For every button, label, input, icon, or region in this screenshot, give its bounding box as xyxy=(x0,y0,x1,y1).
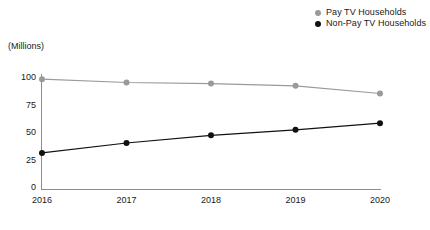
data-point-marker xyxy=(377,91,383,97)
y-axis-tick-label: 0 xyxy=(31,182,36,192)
legend-marker-circle-icon xyxy=(315,21,321,27)
data-point-marker xyxy=(208,81,214,87)
legend-label: Pay TV Households xyxy=(326,8,406,17)
y-axis-tick-label: 50 xyxy=(26,127,36,137)
line-chart: Pay TV Households Non-Pay TV Households … xyxy=(0,0,430,230)
x-axis-tick-label: 2017 xyxy=(116,195,136,205)
legend-label: Non-Pay TV Households xyxy=(326,19,426,28)
data-point-marker xyxy=(377,120,383,126)
data-point-marker xyxy=(124,80,130,86)
series-non-pay-tv-households xyxy=(39,120,383,156)
y-axis-unit-label: (Millions) xyxy=(8,41,44,51)
data-point-marker xyxy=(39,150,45,156)
x-axis-line xyxy=(41,189,381,190)
data-point-marker xyxy=(208,132,214,138)
series-pay-tv-households xyxy=(39,76,383,96)
x-axis-tick-label: 2019 xyxy=(285,195,305,205)
series-layer xyxy=(42,77,380,187)
y-axis-tick-label: 25 xyxy=(26,155,36,165)
legend-item-non-pay-tv-households: Non-Pay TV Households xyxy=(315,19,426,28)
x-axis-tick-label: 2016 xyxy=(32,195,52,205)
y-axis-tick-label: 100 xyxy=(21,72,36,82)
x-axis-tick-label: 2020 xyxy=(370,195,390,205)
chart-legend: Pay TV Households Non-Pay TV Households xyxy=(315,8,426,28)
legend-item-pay-tv-households: Pay TV Households xyxy=(315,8,406,17)
y-axis-tick-label: 75 xyxy=(26,100,36,110)
x-axis-tick-label: 2018 xyxy=(201,195,221,205)
data-point-marker xyxy=(293,83,299,89)
data-point-marker xyxy=(293,127,299,133)
plot-area: 0255075100 20162017201820192020 xyxy=(42,77,380,187)
data-point-marker xyxy=(124,140,130,146)
legend-marker-circle-icon xyxy=(315,10,321,16)
data-point-marker xyxy=(39,76,45,82)
